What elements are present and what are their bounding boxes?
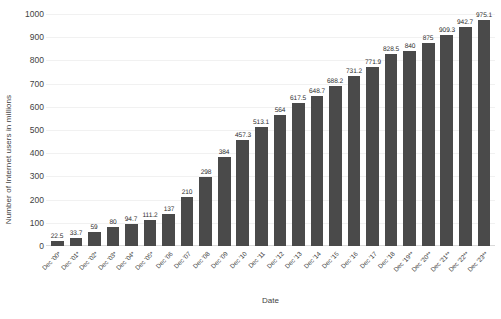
bar-value-label: 22.5	[51, 232, 63, 239]
x-tick-slot: Dec '08	[196, 248, 215, 292]
x-tick-slot: Dec '13	[289, 248, 308, 292]
bar-slot: 828.5	[382, 14, 401, 246]
bar-value-label: 617.5	[290, 94, 306, 101]
x-tick-slot: Dec '15	[326, 248, 345, 292]
y-axis-tick: 500	[30, 125, 44, 135]
bar-series: 22.533.7598094.7111.2137210298384457.351…	[46, 14, 495, 246]
bar-value-label: 111.2	[142, 211, 157, 218]
bar-slot: 909.3	[437, 14, 456, 246]
bar-value-label: 80	[109, 218, 116, 225]
bar[interactable]	[162, 214, 175, 246]
bar-value-label: 513.1	[253, 118, 269, 125]
y-axis-tick: 400	[30, 148, 44, 158]
bar-value-label: 59	[91, 223, 98, 230]
bar-slot: 513.1	[252, 14, 271, 246]
x-tick-slot: Dec '12	[271, 248, 290, 292]
bar-slot: 384	[215, 14, 234, 246]
bar[interactable]	[329, 86, 342, 246]
bar[interactable]	[51, 241, 64, 246]
bar-slot: 875	[419, 14, 438, 246]
bar-slot: 648.7	[308, 14, 327, 246]
x-tick-slot: Dec '14	[308, 248, 327, 292]
bar-value-label: 909.3	[439, 26, 455, 33]
bar[interactable]	[385, 54, 398, 246]
bar[interactable]	[348, 76, 361, 246]
bar-value-label: 771.9	[365, 58, 381, 65]
bar-slot: 688.2	[326, 14, 345, 246]
x-tick-slot: Dec '05*	[141, 248, 160, 292]
bar-slot: 731.2	[345, 14, 364, 246]
bar[interactable]	[459, 27, 472, 246]
bar[interactable]	[255, 127, 268, 246]
bar-chart: Number of Internet users in millions 100…	[0, 0, 501, 319]
bar-slot: 457.3	[233, 14, 252, 246]
bar-slot: 111.2	[141, 14, 160, 246]
bar[interactable]	[218, 157, 231, 246]
bar[interactable]	[292, 103, 305, 246]
x-axis-tick: Dec '00*	[41, 250, 62, 271]
bar-value-label: 210	[182, 188, 193, 195]
bar-slot: 137	[159, 14, 178, 246]
x-tick-slot: Dec '23**	[475, 248, 494, 292]
bar-slot: 771.9	[363, 14, 382, 246]
bar-slot: 210	[178, 14, 197, 246]
bar[interactable]	[199, 177, 212, 246]
bar[interactable]	[422, 43, 435, 246]
bar-slot: 975.1	[475, 14, 494, 246]
bar-slot: 942.7	[456, 14, 475, 246]
bar-value-label: 975.1	[476, 11, 492, 18]
bar[interactable]	[440, 35, 453, 246]
bar[interactable]	[311, 96, 324, 246]
bar-slot: 840	[400, 14, 419, 246]
bar-value-label: 875	[423, 34, 434, 41]
y-axis-tick-labels: 10009008007006005004003002001000	[14, 14, 44, 246]
bar[interactable]	[366, 67, 379, 246]
bar-slot: 59	[85, 14, 104, 246]
bar[interactable]	[144, 220, 157, 246]
bar-value-label: 731.2	[346, 67, 362, 74]
x-tick-slot: Dec '07	[178, 248, 197, 292]
bar-value-label: 942.7	[457, 18, 473, 25]
bar-value-label: 828.5	[383, 45, 399, 52]
bar-slot: 298	[196, 14, 215, 246]
bar-value-label: 688.2	[327, 77, 343, 84]
bar-slot: 22.5	[48, 14, 67, 246]
bar[interactable]	[478, 20, 491, 246]
bar-slot: 564	[271, 14, 290, 246]
x-tick-slot: Dec '06	[159, 248, 178, 292]
x-tick-slot: Dec '11	[252, 248, 271, 292]
bar-value-label: 384	[219, 148, 230, 155]
y-axis-tick: 0	[39, 241, 44, 251]
x-axis-title: Date	[46, 296, 495, 305]
bar[interactable]	[403, 51, 416, 246]
y-axis-tick: 300	[30, 171, 44, 181]
bar-slot: 33.7	[67, 14, 86, 246]
bar[interactable]	[181, 197, 194, 246]
bar-value-label: 564	[274, 106, 285, 113]
x-tick-slot: Dec '10	[233, 248, 252, 292]
y-axis-tick: 600	[30, 102, 44, 112]
bar[interactable]	[125, 224, 138, 246]
bar-slot: 80	[104, 14, 123, 246]
bar[interactable]	[88, 232, 101, 246]
bar-value-label: 94.7	[125, 215, 137, 222]
bar-value-label: 298	[200, 168, 211, 175]
y-axis-tick: 700	[30, 79, 44, 89]
x-tick-slot: Dec '17	[363, 248, 382, 292]
bar-value-label: 137	[163, 205, 174, 212]
y-axis-tick: 900	[30, 32, 44, 42]
bar-value-label: 648.7	[309, 86, 325, 93]
x-tick-slot: Dec '09	[215, 248, 234, 292]
y-axis-tick: 800	[30, 55, 44, 65]
bar[interactable]	[107, 227, 120, 246]
bar-slot: 617.5	[289, 14, 308, 246]
bar[interactable]	[236, 140, 249, 246]
bar-slot: 94.7	[122, 14, 141, 246]
y-axis-tick: 100	[30, 218, 44, 228]
y-axis-tick: 200	[30, 195, 44, 205]
bar-value-label: 457.3	[235, 131, 251, 138]
bar[interactable]	[274, 115, 287, 246]
x-axis-tick-labels: Dec '00*Dec '01*Dec '02*Dec '03*Dec '04*…	[46, 248, 495, 292]
bar[interactable]	[70, 238, 83, 246]
plot-area: 22.533.7598094.7111.2137210298384457.351…	[46, 14, 495, 246]
